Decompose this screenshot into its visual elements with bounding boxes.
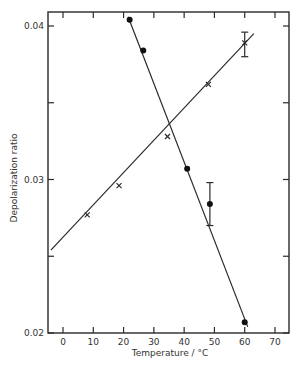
y-axis-label: Depolarization ratio [9,133,19,222]
dot-marker [140,48,146,54]
x-axis-ticks: 010203040506070 [60,12,281,347]
x-tick-label: 60 [239,337,251,347]
y-axis-ticks: 0.020.030.04 [24,21,289,338]
y-tick-label: 0.02 [24,328,44,338]
x-tick-label: 40 [178,337,190,347]
y-tick-label: 0.04 [24,21,44,31]
dots-fit-line [128,17,248,327]
x-axis-label: Temperature / °C [131,348,209,358]
x-tick-label: 0 [60,337,66,347]
fit-lines [51,17,254,327]
dot-marker [207,201,213,207]
chart: 010203040506070 0.020.030.04 Temperature… [0,0,300,367]
y-tick-label: 0.03 [24,175,44,185]
dot-marker [127,17,133,23]
x-tick-label: 10 [88,337,100,347]
crosses-fit-line [51,34,254,250]
x-tick-label: 50 [209,337,221,347]
dot-marker [242,319,248,325]
dot-marker [184,166,190,172]
x-tick-label: 20 [118,337,130,347]
plot-border [48,12,289,333]
x-tick-label: 30 [148,337,160,347]
x-tick-label: 70 [269,337,281,347]
data-markers [85,17,248,325]
plot-frame [48,12,289,333]
